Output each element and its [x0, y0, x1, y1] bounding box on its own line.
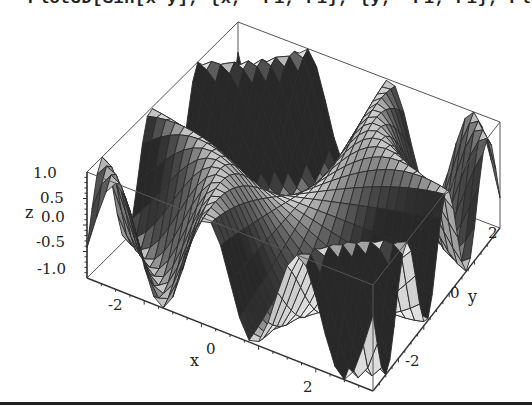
x-axis-label: x [190, 351, 199, 370]
separator-rule [0, 402, 532, 405]
x-tick-1: -2 [108, 296, 123, 314]
z-tick-2: 0.5 [40, 189, 64, 207]
z-tick-4: -0.5 [36, 233, 65, 251]
z-tick-3: 0.0 [41, 208, 65, 226]
z-tick-5: -1.0 [37, 260, 66, 278]
z-axis: 1.0 0.5 0.0 -0.5 -1.0 z [25, 164, 66, 278]
x-tick-2: 0 [206, 340, 216, 358]
z-axis-label: z [25, 203, 33, 222]
y-tick-2: 0 [450, 284, 460, 302]
y-axis-label: y [467, 287, 477, 306]
surface-plot[interactable]: 1.0 0.5 0.0 -0.5 -1.0 z -2 0 2 x -2 0 2 … [0, 0, 532, 400]
y-tick-3: 2 [488, 224, 498, 242]
x-tick-3: 2 [303, 378, 313, 396]
y-tick-1: -2 [405, 352, 420, 370]
z-tick-1: 1.0 [33, 164, 57, 182]
